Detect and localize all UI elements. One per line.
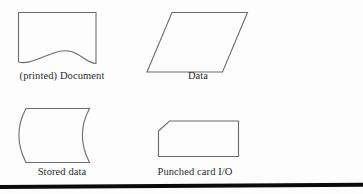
stored-data-symbol-icon [19,109,90,163]
figure-page: (printed) Document Data Stored data Punc… [0,0,363,194]
flowchart-symbols-illustration [0,0,363,194]
symbol-label-stored-data: Stored data [6,166,118,177]
symbol-label-data: Data [146,70,250,81]
data-symbol-icon [147,13,248,73]
symbol-label-punched-card: Punched card I/O [133,166,257,177]
punched-card-symbol-icon [159,121,239,157]
symbol-label-document: (printed) Document [6,70,118,81]
document-symbol-icon [19,13,97,64]
